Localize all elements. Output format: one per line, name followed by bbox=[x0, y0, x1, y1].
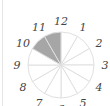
label-1: 1 bbox=[80, 21, 87, 34]
label-4: 4 bbox=[95, 81, 103, 94]
label-10: 10 bbox=[16, 37, 30, 50]
label-11: 11 bbox=[32, 21, 46, 34]
label-5: 5 bbox=[80, 97, 87, 106]
label-8: 8 bbox=[19, 81, 26, 94]
label-12: 12 bbox=[54, 15, 68, 28]
label-9: 9 bbox=[14, 59, 21, 72]
label-7: 7 bbox=[36, 97, 43, 106]
label-3: 3 bbox=[102, 59, 109, 72]
clock-fraction-diagram: 121234567891011 bbox=[0, 0, 110, 106]
label-2: 2 bbox=[95, 37, 103, 50]
label-6: 6 bbox=[58, 103, 65, 106]
